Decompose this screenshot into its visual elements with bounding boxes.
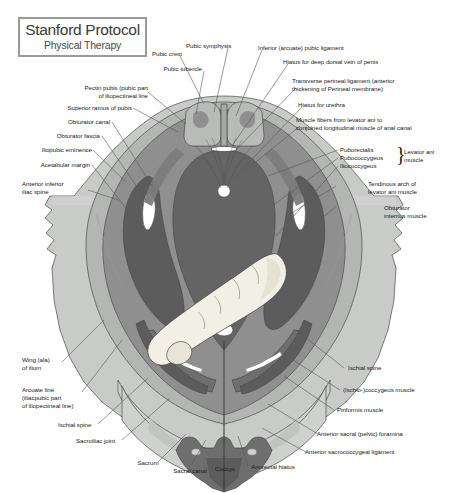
label-ischial-spine-right: Ischial spine (348, 364, 404, 372)
label-hiatus-for-urethra: Hiatus for urethra (298, 101, 382, 109)
label-pubic-tubercle: Pubic tubercle (122, 65, 202, 73)
label-muscle-fibers-levator-ani: Muscle fibers from levator ani to conjoi… (296, 116, 446, 132)
label-arcuate-line: Arcuate line (iliacpubic part of iliopec… (22, 386, 94, 411)
label-obturator-canal: Obturator canal (44, 118, 110, 126)
label-obturator-internus-muscle: Obturator internus muscle (384, 204, 448, 220)
label-sacroiliac-joint: Sacroiliac joint (76, 437, 138, 445)
logo-title: Stanford Protocol (25, 22, 140, 38)
label-transverse-perineal-ligament: Transverse perineal ligament (anterior t… (292, 77, 434, 93)
label-sacrum: Sacrum (128, 459, 168, 467)
label-levator-ani-muscle: Levator ani muscle (404, 148, 448, 164)
label-coccyx: Coccyx (208, 465, 242, 473)
label-pubic-symphysis: Pubic symphysis (186, 42, 252, 50)
label-anterior-inferior-iliac-spine: Anterior inferior iliac spine (22, 180, 88, 196)
label-pubococcygeus: Pubococcygeus (340, 154, 400, 162)
label-obturator-fascia: Obturator fascia (38, 132, 100, 140)
pelvic-anatomy-illustration (0, 0, 449, 494)
logo-subtitle: Physical Therapy (44, 39, 121, 52)
label-hiatus-deep-dorsal-vein-penis: Hiatus for deep dorsal vein of penis (283, 58, 419, 66)
label-iliopubic-eminence: Iliopubic eminence (22, 146, 92, 154)
stanford-protocol-logo: Stanford Protocol Physical Therapy (18, 17, 147, 57)
label-ischial-spine-left: Ischial spine (58, 421, 110, 429)
label-inferior-arcuate-pubic-ligament: Inferior (arcuate) pubic ligament (258, 44, 382, 52)
label-iliococcygeus: Iliococcygeus (340, 162, 398, 170)
label-pectin-pubis: Pectin pubis (pubic part of iliopectinea… (60, 84, 148, 100)
label-ischio-coccygeus-muscle: (Ischio-)coccygeus muscle (343, 386, 447, 394)
label-anorectal-hiatus: Anorectal hiatus (242, 463, 304, 471)
label-anterior-sacrococcygeal-ligament: Anterior sacrococcygeal ligament (305, 448, 437, 456)
label-tendinous-arch-levator-ani: Tendinous arch of levator ani muscle (368, 180, 448, 196)
figure-page: Stanford Protocol Physical Therapy Pubic… (0, 0, 449, 494)
label-puborectalis: Puborectalis (340, 146, 396, 154)
label-piriformis-muscle: Piriformis muscle (337, 406, 411, 414)
label-superior-ramus-of-pubis: Superior ramus of pubis (50, 104, 132, 112)
label-anterior-sacral-pelvic-foramina: Anterior sacral (pelvic) foramina (317, 430, 443, 438)
label-wing-ala-of-ilium: Wing (ala) of ilium (22, 356, 82, 372)
label-acetabular-margin: Acetabular margin (22, 161, 90, 169)
